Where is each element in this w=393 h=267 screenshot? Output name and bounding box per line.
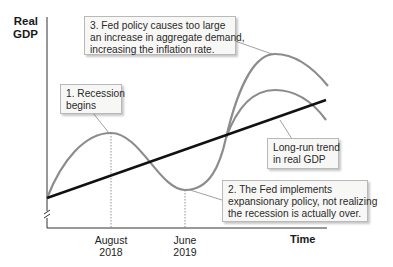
leader-fed-expansion [190,190,222,200]
annotation-recession: 1. Recession begins [60,84,122,114]
annotation-fed-expansion: 2. The Fed implements expansionary polic… [222,180,368,222]
x-tick-august-2018: August 2018 [86,234,136,258]
gdp-curve-high [226,54,328,138]
y-axis-label: Real GDP [6,15,38,41]
leader-recession [93,113,109,133]
x-axis-label: Time [290,233,315,245]
axis-break-icon [44,210,50,218]
annotation-trend: Long-run trend in real GDP [267,138,339,169]
x-tick-june-2019: June 2019 [162,234,208,258]
leader-trend [280,120,292,139]
annotation-fed-overshoot: 3. Fed policy causes too large an increa… [84,16,236,55]
